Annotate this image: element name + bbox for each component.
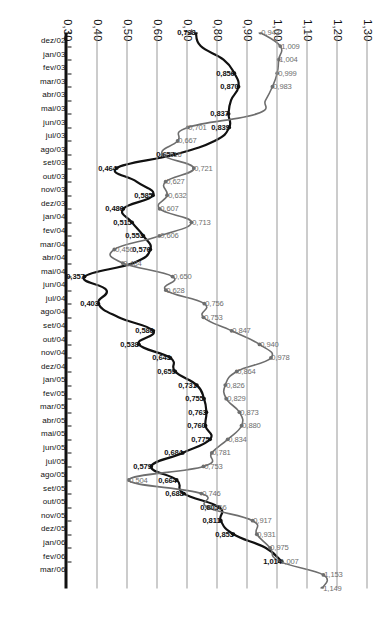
category-tick	[67, 452, 71, 453]
category-axis-label: out/04	[42, 334, 65, 343]
data-value-label: 0,701	[188, 122, 207, 131]
data-value-label: 0,856	[216, 68, 235, 77]
category-tick	[67, 59, 71, 60]
category-tick	[67, 181, 71, 182]
category-axis-label: mar/05	[40, 401, 66, 410]
category-tick	[67, 412, 71, 413]
data-value-label: 0,616	[163, 150, 182, 159]
category-tick	[67, 493, 71, 494]
data-value-label: 0,781	[212, 448, 231, 457]
category-axis-label: jan/05	[43, 374, 65, 383]
category-tick	[67, 290, 71, 291]
data-value-label: 1,014	[263, 556, 282, 565]
category-axis-label: fev/04	[43, 225, 65, 234]
category-tick	[67, 235, 71, 236]
category-tick	[67, 439, 71, 440]
data-value-label: 0,766	[208, 502, 227, 511]
data-value-label: 1,153	[324, 570, 343, 579]
data-value-label: 0,753	[204, 461, 223, 470]
data-value-label: 0,731	[178, 380, 197, 389]
category-tick	[67, 520, 71, 521]
data-value-label: 0,650	[173, 272, 192, 281]
gridline	[186, 32, 187, 588]
gridline	[246, 32, 247, 588]
data-value-label: 0,721	[194, 163, 213, 172]
category-axis-label: jun/05	[43, 442, 65, 451]
data-value-label: 0,486	[105, 204, 124, 213]
category-axis-label: dez/04	[40, 361, 65, 370]
category-axis-label: mar/04	[40, 239, 66, 248]
gridline	[306, 32, 307, 588]
data-value-label: 0,579	[132, 461, 151, 470]
category-tick	[67, 303, 71, 304]
category-axis-label: mai/03	[40, 103, 65, 112]
data-value-label: 0,834	[228, 434, 247, 443]
data-value-label: 0,659	[156, 367, 175, 376]
data-value-label: 0,538	[120, 339, 139, 348]
category-axis-label: jan/03	[43, 49, 65, 58]
category-tick	[67, 154, 71, 155]
category-axis-label: jan/04	[43, 211, 65, 220]
category-axis-label: jun/03	[43, 117, 65, 126]
data-value-label: 0,515	[113, 217, 132, 226]
category-tick	[67, 113, 71, 114]
data-value-label: 0,667	[178, 136, 197, 145]
data-value-label: 0,763	[188, 407, 207, 416]
data-value-label: 0,983	[273, 82, 292, 91]
data-value-label: 0,864	[237, 367, 256, 376]
data-value-label: 1,007	[280, 556, 299, 565]
category-tick	[67, 480, 71, 481]
data-value-label: 0,870	[220, 82, 239, 91]
category-axis-label: dez/03	[40, 198, 65, 207]
data-value-label: 0,775	[191, 434, 210, 443]
category-axis-label: nov/03	[40, 184, 65, 193]
category-axis-label: dez/05	[40, 523, 65, 532]
data-value-label: 0,746	[202, 489, 221, 498]
category-tick	[67, 330, 71, 331]
data-value-label: 0,403	[80, 299, 99, 308]
data-value-label: 0,357	[66, 272, 85, 281]
data-value-label: 0,853	[215, 529, 234, 538]
category-axis-label: mai/04	[40, 266, 65, 275]
gridline	[336, 32, 337, 588]
data-value-label: 1,149	[322, 584, 341, 593]
gridline	[126, 32, 127, 588]
category-tick	[67, 344, 71, 345]
data-value-label: 0,978	[271, 353, 290, 362]
data-value-label: 0,999	[277, 68, 296, 77]
category-tick	[67, 32, 71, 33]
category-axis-label: ago/03	[40, 144, 65, 153]
data-value-label: 0,837	[210, 109, 229, 118]
data-value-label: 0,975	[270, 543, 289, 552]
category-tick	[67, 398, 71, 399]
data-value-label: 0,643	[152, 353, 171, 362]
category-tick	[67, 466, 71, 467]
data-value-label: 0,607	[160, 204, 179, 213]
data-value-label: 0,585	[134, 190, 153, 199]
category-axis-label: fev/06	[43, 551, 65, 560]
category-axis-label: nov/05	[40, 510, 65, 519]
category-axis-label: mar/03	[40, 76, 66, 85]
data-value-label: 1,009	[280, 41, 299, 50]
data-value-label: 0,753	[204, 312, 223, 321]
category-tick	[67, 547, 71, 548]
data-value-label: 0,586	[135, 326, 154, 335]
category-tick	[67, 73, 71, 74]
category-axis-label: out/03	[42, 171, 65, 180]
category-tick	[67, 140, 71, 141]
category-tick	[67, 425, 71, 426]
data-value-label: 1,004	[279, 55, 298, 64]
category-tick	[67, 127, 71, 128]
category-tick	[67, 561, 71, 562]
gridline	[96, 32, 97, 588]
category-tick	[67, 100, 71, 101]
gridline	[366, 32, 367, 588]
data-value-label: 0,917	[253, 516, 272, 525]
category-axis-label: jan/06	[43, 537, 65, 546]
data-value-label: 0,826	[226, 380, 245, 389]
data-value-label: 0,553	[125, 231, 144, 240]
data-value-label: 0,688	[165, 489, 184, 498]
category-tick	[67, 507, 71, 508]
category-axis-label: nov/04	[40, 347, 65, 356]
data-value-label: 0,627	[166, 177, 185, 186]
